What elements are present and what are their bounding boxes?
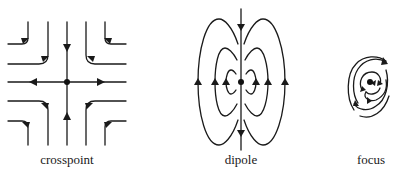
arrow-left-icon: [29, 78, 37, 86]
arrow-up-icon: [63, 112, 71, 120]
arrow-icon: [367, 97, 372, 104]
arrow-up-icon: [194, 78, 202, 85]
crosspoint-center-dot: [64, 79, 70, 85]
arrow-icon: [22, 122, 30, 128]
focus-diagram: [348, 57, 389, 117]
focus-label: focus: [357, 152, 385, 168]
arrow-down-icon: [237, 130, 245, 137]
arrow-up-icon: [222, 78, 230, 85]
arrow-down-icon: [63, 44, 71, 52]
arrow-up-icon: [264, 78, 272, 85]
focus-spiral-arm-2: [354, 70, 388, 110]
dipole-diagram: [194, 9, 289, 150]
arrow-up-icon: [281, 78, 289, 85]
dipole-right-outer-loop: [244, 19, 285, 145]
dipole-center-dot: [238, 79, 244, 85]
dipole-left-outer-loop: [198, 19, 238, 145]
crosspoint-diagram: [8, 22, 126, 145]
focus-center-dot: [367, 79, 373, 85]
arrow-up-icon: [211, 78, 219, 85]
focus-spiral-inner-2: [366, 88, 380, 94]
crosspoint-label: crosspoint: [40, 152, 93, 168]
arrow-up-icon: [252, 78, 260, 85]
arrow-right-icon: [97, 78, 105, 86]
arrow-down-icon: [237, 24, 245, 31]
dipole-label: dipole: [225, 152, 258, 168]
